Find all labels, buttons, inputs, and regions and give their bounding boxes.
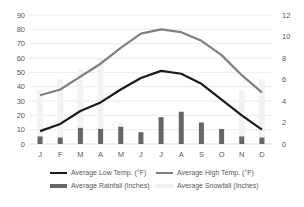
x-axis-tick: A: [98, 150, 103, 159]
rainfall-bar: [118, 127, 123, 144]
rainfall-bar: [38, 136, 43, 144]
rainfall-bar: [138, 132, 143, 144]
left-axis-tick: 40: [17, 82, 25, 91]
legend-swatch-low-temp: [50, 172, 67, 174]
rainfall-bar: [259, 138, 264, 144]
right-axis-tick: 2: [282, 118, 286, 127]
left-axis-tick: 90: [17, 11, 25, 20]
x-axis-tick: J: [159, 150, 163, 159]
rainfall-bar: [199, 123, 204, 145]
rainfall-bar: [78, 128, 83, 144]
left-axis-tick: 10: [17, 125, 25, 134]
left-axis-tick: 50: [17, 68, 25, 77]
chart-plot-area: 0102030405060708090024681012JFMAMJJASOND: [0, 0, 304, 165]
legend-swatch-snowfall: [156, 184, 173, 188]
right-axis-tick: 0: [282, 140, 286, 149]
legend-label-high-temp: Average High Temp. (°F): [177, 169, 254, 176]
x-axis-tick: M: [118, 150, 124, 159]
legend-label-snowfall: Average Snowfall (Inches): [177, 182, 259, 189]
x-axis-tick: S: [199, 150, 204, 159]
legend-item-rainfall: Average Rainfall (Inches): [50, 182, 156, 189]
legend-item-snowfall: Average Snowfall (Inches): [156, 182, 262, 189]
left-axis-tick: 20: [17, 111, 25, 120]
left-axis-tick: 70: [17, 39, 25, 48]
right-axis-tick: 10: [282, 32, 290, 41]
snowfall-bar: [37, 90, 43, 144]
x-axis-tick: D: [259, 150, 265, 159]
right-axis-tick: 12: [282, 11, 290, 20]
legend-swatch-rainfall: [50, 184, 67, 188]
right-axis-tick: 4: [282, 97, 286, 106]
rainfall-bar: [179, 112, 184, 144]
legend-item-high-temp: Average High Temp. (°F): [156, 169, 262, 176]
right-axis-tick: 8: [282, 54, 286, 63]
x-axis-tick: F: [58, 150, 63, 159]
legend-item-low-temp: Average Low Temp. (°F): [50, 169, 156, 176]
left-axis-tick: 0: [21, 140, 25, 149]
high-temp-line: [40, 29, 262, 95]
x-axis-tick: A: [179, 150, 184, 159]
x-axis-tick: O: [219, 150, 225, 159]
legend-label-low-temp: Average Low Temp. (°F): [71, 169, 146, 176]
legend-label-rainfall: Average Rainfall (Inches): [71, 182, 149, 189]
x-axis-tick: N: [239, 150, 244, 159]
left-axis-tick: 30: [17, 97, 25, 106]
x-axis-tick: M: [77, 150, 83, 159]
rainfall-bar: [219, 129, 224, 144]
x-axis-tick: J: [139, 150, 143, 159]
rainfall-bar: [239, 136, 244, 144]
legend-swatch-high-temp: [156, 172, 173, 174]
chart-legend: Average Low Temp. (°F) Average High Temp…: [50, 166, 270, 192]
left-axis-tick: 80: [17, 25, 25, 34]
x-axis-tick: J: [38, 150, 42, 159]
rainfall-bar: [98, 129, 103, 144]
left-axis-tick: 60: [17, 54, 25, 63]
right-axis-tick: 6: [282, 75, 286, 84]
rainfall-bar: [159, 117, 164, 144]
rainfall-bar: [58, 138, 63, 144]
climate-chart: 0102030405060708090024681012JFMAMJJASOND…: [0, 0, 304, 207]
